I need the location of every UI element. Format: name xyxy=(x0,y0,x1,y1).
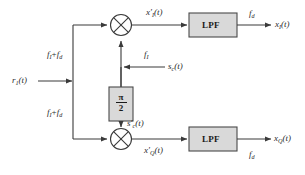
carrier-source-label: sc(t) xyxy=(168,62,183,71)
mixer-i xyxy=(111,15,132,36)
shifted-carrier-label: s′c(t) xyxy=(127,119,144,128)
bottom-branch-frequency-label: fI+fd xyxy=(47,108,62,117)
top-branch-frequency-label: fI+fd xyxy=(47,50,62,59)
mixer-q-output-label: x′Q(t) xyxy=(144,146,163,155)
output-i-label: xI(t) xyxy=(275,20,290,29)
mixer-q xyxy=(111,129,132,150)
carrier-frequency-label: fI xyxy=(144,50,149,59)
output-q-label: xQ(t) xyxy=(274,134,291,143)
diagram-canvas: r1(t) fI+fd fI+fd x′I(t) x′Q(t) fI sc(t)… xyxy=(0,0,305,175)
top-output-frequency-label: fd xyxy=(249,9,255,18)
mixer-i-output-label: x′I(t) xyxy=(146,8,163,17)
phase-shifter-label: π 2 xyxy=(109,92,133,114)
input-label: r1(t) xyxy=(12,76,27,85)
phase-shifter-denominator: 2 xyxy=(109,103,133,114)
lpf-i-label: LPF xyxy=(202,20,220,30)
bottom-output-frequency-label: fd xyxy=(249,150,255,159)
lpf-q-label: LPF xyxy=(202,134,220,144)
phase-shifter-numerator: π xyxy=(109,92,133,102)
